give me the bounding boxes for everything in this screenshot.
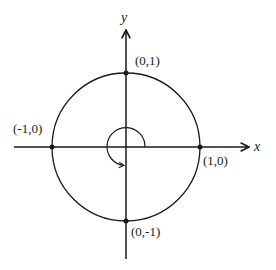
point-label-left: (-1,0) bbox=[13, 121, 42, 136]
point-left bbox=[50, 145, 55, 150]
point-label-right: (1,0) bbox=[203, 153, 228, 168]
point-top bbox=[124, 71, 129, 76]
unit-circle-diagram: y x (0,1) (-1,0) (1,0) (0,-1) bbox=[0, 0, 276, 270]
point-right bbox=[198, 145, 203, 150]
y-axis-label: y bbox=[119, 10, 128, 25]
point-bottom bbox=[124, 219, 129, 224]
point-label-bottom: (0,-1) bbox=[131, 224, 160, 239]
x-axis-label: x bbox=[253, 139, 261, 154]
point-label-top: (0,1) bbox=[135, 53, 160, 68]
